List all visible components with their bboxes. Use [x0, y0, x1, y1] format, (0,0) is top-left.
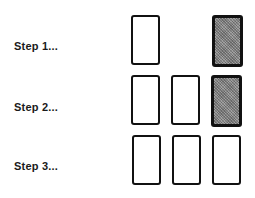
- step-2-card-3-face-down: [211, 75, 242, 127]
- step-1-card-1-face-up: [131, 15, 160, 65]
- step-2-label: Step 2...: [14, 101, 58, 113]
- step-2-card-2-face-up: [171, 75, 200, 125]
- step-2-card-1-face-up: [131, 75, 160, 125]
- step-3-label: Step 3...: [14, 160, 58, 172]
- step-3-card-2-face-up: [172, 135, 201, 185]
- step-1-label: Step 1...: [14, 40, 58, 52]
- step-3-card-1-face-up: [132, 135, 161, 185]
- step-3-card-3-face-up: [212, 135, 241, 185]
- step-1-card-3-face-down: [212, 15, 243, 67]
